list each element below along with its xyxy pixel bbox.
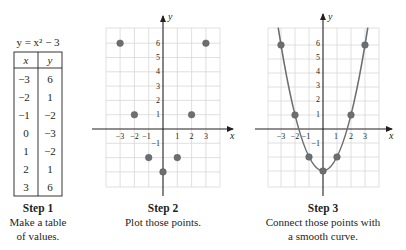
step3-desc-line1: Connect those points with — [266, 216, 381, 228]
data-point — [117, 40, 124, 47]
table-cell: 6 — [47, 181, 53, 193]
table-cell: −2 — [18, 91, 30, 103]
data-point — [145, 154, 152, 161]
step2-y-label: y — [167, 11, 173, 22]
svg-text:3: 3 — [363, 132, 367, 141]
svg-text:−3: −3 — [116, 132, 125, 141]
table-cell: 2 — [23, 163, 29, 175]
svg-text:4: 4 — [316, 67, 320, 76]
data-point — [320, 168, 327, 175]
step3-x-label: x — [388, 130, 394, 141]
svg-text:−1: −1 — [311, 139, 320, 148]
svg-text:2: 2 — [349, 132, 353, 141]
step2-panel: x y −3 −2 −1 1 2 3 6 5 4 3 2 1 −1 — [92, 11, 235, 228]
equation-label: y = x² − 3 — [16, 36, 60, 48]
data-point — [334, 154, 341, 161]
svg-text:1: 1 — [316, 110, 320, 119]
data-point — [306, 154, 313, 161]
data-point — [188, 111, 195, 118]
table-cell: 3 — [23, 181, 29, 193]
svg-text:5: 5 — [156, 53, 160, 62]
table-cell: −3 — [18, 73, 30, 85]
svg-text:−1: −1 — [142, 132, 151, 141]
step1-panel: y = x² − 3 x y −3 6 −2 1 −1 −2 0 −3 1 −2… — [10, 36, 67, 242]
svg-text:2: 2 — [156, 96, 160, 105]
data-point — [160, 169, 167, 176]
table-cell: 1 — [47, 91, 53, 103]
step1-desc-line1: Make a table — [10, 216, 67, 228]
svg-text:3: 3 — [204, 132, 208, 141]
step2-y-ticks: 6 5 4 3 2 1 −1 — [151, 39, 160, 148]
step1-desc-line2: of values. — [17, 230, 60, 242]
table-cell: 0 — [23, 127, 29, 139]
data-point — [203, 40, 210, 47]
data-point — [362, 42, 369, 49]
step3-title: Step 3 — [308, 202, 339, 215]
table-cell: 6 — [47, 73, 53, 85]
table-cell: −3 — [44, 127, 56, 139]
step2-title: Step 2 — [148, 202, 179, 215]
table-header-x: x — [23, 54, 29, 66]
table-header-y: y — [47, 54, 53, 66]
svg-text:1: 1 — [334, 132, 338, 141]
data-point — [131, 111, 138, 118]
data-point — [174, 154, 181, 161]
svg-text:6: 6 — [316, 39, 320, 48]
step3-desc-line2: a smooth curve. — [288, 230, 358, 242]
step1-title: Step 1 — [23, 202, 54, 215]
svg-text:4: 4 — [156, 67, 160, 76]
table-cell: −2 — [44, 145, 56, 157]
svg-text:2: 2 — [190, 132, 194, 141]
svg-text:−2: −2 — [130, 132, 139, 141]
svg-text:3: 3 — [316, 81, 320, 90]
svg-text:5: 5 — [316, 53, 320, 62]
figure-canvas: y = x² − 3 x y −3 6 −2 1 −1 −2 0 −3 1 −2… — [0, 0, 406, 250]
step3-x-ticks: −3 −2 −1 1 2 3 — [277, 132, 367, 141]
step3-panel: x y −3 −2 −1 1 2 3 6 5 4 3 2 1 −1 — [255, 11, 394, 242]
data-point — [278, 42, 285, 49]
svg-text:1: 1 — [156, 110, 160, 119]
step3-y-ticks: 6 5 4 3 2 1 −1 — [311, 39, 320, 148]
table-cell: 1 — [23, 145, 29, 157]
table-cell: −2 — [44, 109, 56, 121]
svg-text:6: 6 — [156, 39, 160, 48]
step3-y-label: y — [327, 11, 333, 22]
svg-text:2: 2 — [316, 95, 320, 104]
svg-text:−3: −3 — [277, 132, 286, 141]
data-point — [348, 112, 355, 119]
table-cell: −1 — [18, 109, 30, 121]
svg-text:−1: −1 — [302, 132, 311, 141]
svg-text:−2: −2 — [291, 132, 300, 141]
step2-x-ticks: −3 −2 −1 1 2 3 — [116, 132, 208, 141]
data-point — [292, 112, 299, 119]
svg-text:−1: −1 — [151, 139, 160, 148]
table-cell: 1 — [47, 163, 53, 175]
step2-desc-line1: Plot those points. — [125, 216, 201, 228]
svg-text:3: 3 — [156, 82, 160, 91]
svg-text:1: 1 — [175, 132, 179, 141]
step2-x-label: x — [229, 130, 235, 141]
